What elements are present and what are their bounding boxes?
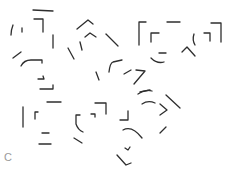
line-fragment-lower-right bbox=[138, 90, 152, 94]
line-fragment-upper-right bbox=[193, 34, 195, 45]
line-fragment-upper-right bbox=[182, 47, 195, 56]
line-fragment-lower-middle bbox=[76, 115, 83, 132]
line-fragment-upper-left bbox=[38, 76, 44, 79]
line-fragment-upper-middle bbox=[85, 33, 96, 37]
panel-label: C bbox=[4, 151, 12, 163]
line-fragment-upper-middle bbox=[134, 70, 145, 84]
line-fragment-lower-middle bbox=[91, 114, 95, 117]
line-fragment-upper-left bbox=[11, 25, 13, 35]
line-fragment-lower-right bbox=[117, 155, 131, 165]
line-fragment-upper-middle bbox=[109, 60, 122, 72]
line-fragment-lower-middle bbox=[95, 103, 106, 114]
line-fragment-lower-right bbox=[125, 147, 130, 150]
fragmented-contour-figure bbox=[0, 0, 231, 173]
line-fragment-upper-middle bbox=[80, 42, 82, 50]
line-fragment-lower-right bbox=[123, 129, 142, 138]
line-fragment-upper-left bbox=[34, 19, 43, 32]
line-fragment-upper-middle bbox=[106, 34, 118, 46]
line-fragment-upper-left bbox=[21, 60, 42, 66]
line-fragment-lower-right bbox=[160, 127, 166, 133]
line-fragment-upper-middle bbox=[68, 48, 74, 59]
line-fragment-upper-right bbox=[204, 33, 210, 41]
line-fragment-upper-right bbox=[151, 33, 159, 42]
line-fragment-lower-right bbox=[160, 104, 167, 115]
line-fragment-lower-right bbox=[142, 102, 155, 104]
line-fragment-lower-right bbox=[120, 111, 128, 120]
line-fragments bbox=[11, 10, 221, 165]
line-fragment-upper-left bbox=[13, 52, 21, 58]
line-fragment-upper-middle bbox=[124, 70, 131, 74]
line-fragment-upper-left bbox=[33, 10, 53, 11]
line-fragment-upper-right bbox=[151, 58, 164, 63]
line-fragment-upper-middle bbox=[77, 20, 93, 29]
line-fragment-lower-left bbox=[35, 112, 38, 119]
line-fragment-lower-middle bbox=[74, 138, 82, 143]
line-fragment-lower-right bbox=[166, 95, 180, 108]
line-fragment-upper-right bbox=[211, 23, 221, 42]
line-fragment-upper-right bbox=[139, 22, 146, 45]
line-fragment-upper-middle bbox=[96, 72, 99, 80]
line-fragment-upper-left bbox=[40, 85, 53, 89]
